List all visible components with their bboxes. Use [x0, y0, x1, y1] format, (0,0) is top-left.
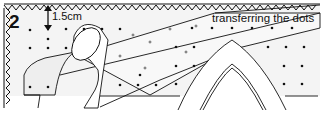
measurement-label: 1.5cm [52, 11, 82, 22]
caption-label: transferring the dots [212, 13, 314, 25]
step-number: 2 [9, 12, 20, 31]
illustration-transferring-dots: 2 1.5cm transferring the dots [0, 0, 322, 117]
